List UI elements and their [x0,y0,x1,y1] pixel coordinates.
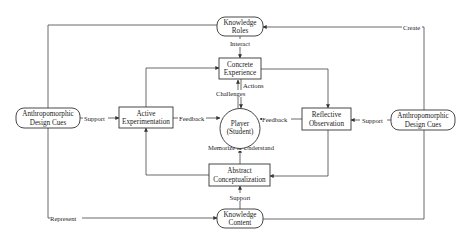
edge-label-actions: Actions [243,82,264,89]
node-label-line2: Design Cues [30,119,67,127]
node-label-line2: Roles [232,27,249,35]
node-abstract-conceptualization: Abstract Conceptualization [209,164,270,186]
edge-ac-to-ae [146,128,209,175]
node-label-line1: Active [136,110,155,118]
edge-represent [48,128,217,218]
edge-kc-to-adc-right [263,130,424,219]
node-label-line1: Knowledge [223,19,256,27]
node-label-line1: Player [231,120,250,128]
node-label-line2: Design Cues [405,121,442,129]
node-label-line2: Experience [224,69,256,77]
node-label-line1: Knowledge [223,211,256,219]
node-label-line2: Experimentation [122,118,170,126]
node-concrete-experience: Concrete Experience [219,58,261,79]
edge-label-create: Create [403,24,420,31]
edge-label-support-bottom: Support [230,194,251,201]
node-anthropomorphic-design-cues-right: Anthropomorphic Design Cues [391,110,455,130]
node-knowledge-roles: Knowledge Roles [217,17,263,36]
node-active-experimentation: Active Experimentation [119,107,173,128]
node-label-line2: Content [229,219,252,227]
node-label-line1: Anthropomorphic [397,112,449,120]
edge-label-feedback-left: Feedback [179,115,205,122]
node-label-line1: Concrete [227,61,253,69]
node-anthropomorphic-design-cues-left: Anthropomorphic Design Cues [16,108,80,128]
edge-label-support-right: Support [362,117,383,124]
edge-ro-to-ac [270,130,328,176]
edge-label-challenges: Challenges [216,90,246,97]
node-label-line2: Conceptualization [213,176,266,184]
node-knowledge-content: Knowledge Content [217,209,263,228]
node-label-line1: Reflective [312,111,342,119]
edge-label-feedback-right: Feedback [262,116,288,123]
node-label-line1: Abstract [227,167,251,175]
diagram-canvas: Interact Actions Challenges Feedback Fee… [0,0,473,238]
edge-label-interact: Interact [230,40,250,47]
node-player: Player (Student) [220,109,260,149]
node-label-line2: Observation [309,120,345,128]
edge-ae-to-ce [146,68,219,107]
edge-label-represent: Represent [50,215,77,222]
node-label-line1: Anthropomorphic [22,110,74,118]
node-label-line2: (Student) [227,128,254,136]
edge-adc-left-to-knowledge-roles [48,25,217,108]
edge-create [263,27,424,110]
node-reflective-observation: Reflective Observation [302,108,351,130]
edge-label-support-left: Support [84,115,105,122]
edge-ce-to-ro [261,69,328,108]
